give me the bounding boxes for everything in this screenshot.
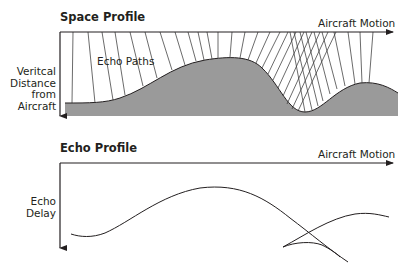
- diagram: Space Profile Aircraft Motion Echo Paths…: [0, 0, 411, 272]
- echo-curve-main: [71, 187, 348, 262]
- y-label-line-1: Veritcal: [4, 66, 56, 78]
- echo-profile-panel: [60, 163, 393, 262]
- echo-x-axis-label: Aircraft Motion: [318, 148, 395, 160]
- space-x-axis-label: Aircraft Motion: [318, 17, 395, 29]
- diagram-graphics: [0, 0, 411, 272]
- echo-curve-cusp: [283, 243, 340, 257]
- echo-paths-annotation: Echo Paths: [97, 55, 154, 67]
- echo-y-axis-label: Echo Delay: [4, 196, 56, 219]
- space-profile-title: Space Profile: [60, 10, 145, 24]
- y-label-line-3: from: [4, 89, 56, 101]
- echo-curve-rising: [283, 213, 389, 247]
- echo-y-label-line-2: Delay: [4, 208, 56, 220]
- space-profile-panel: [60, 32, 398, 116]
- echo-y-label-line-1: Echo: [4, 196, 56, 208]
- space-y-axis-label: Veritcal Distance from Aircraft: [4, 66, 56, 112]
- echo-profile-title: Echo Profile: [60, 141, 137, 155]
- echo-curves: [71, 187, 389, 262]
- y-label-line-4: Aircraft: [4, 101, 56, 113]
